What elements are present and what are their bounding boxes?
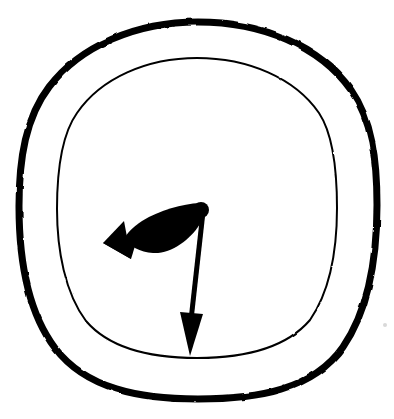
- clock-drawing: [0, 0, 394, 419]
- clock-figure: Analog clock face Hand-drawn black-and-w…: [0, 0, 394, 419]
- stray-mark: [383, 323, 387, 327]
- center-hub: [193, 202, 209, 218]
